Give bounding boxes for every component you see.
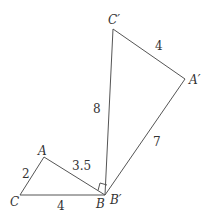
triangle-abc [20, 157, 105, 195]
triangle-a-prime-b-prime-c-prime [105, 29, 185, 195]
vertex-label-b-prime: B′ [109, 193, 122, 207]
side-label-c-prime-a-prime: 4 [155, 39, 163, 53]
edge-c-prime-a-prime [113, 29, 185, 79]
vertex-label-c: C [10, 195, 19, 209]
vertex-label-c-prime: C′ [108, 13, 120, 27]
side-label-ac: 2 [22, 167, 30, 181]
side-label-a-prime-b-prime: 7 [153, 135, 161, 149]
edge-a-prime-b-prime [105, 79, 185, 195]
vertex-label-a: A [37, 144, 47, 158]
edge-c-prime-b-prime [105, 29, 113, 195]
vertex-label-a-prime: A′ [188, 73, 201, 87]
vertex-label-b: B [95, 197, 105, 211]
side-label-cb: 4 [57, 199, 65, 213]
side-label-c-prime-b-prime: 8 [93, 102, 101, 116]
geometry-diagram: A C B B′ C′ A′ 2 3.5 4 4 8 7 [0, 0, 211, 218]
side-label-ab: 3.5 [72, 159, 91, 173]
